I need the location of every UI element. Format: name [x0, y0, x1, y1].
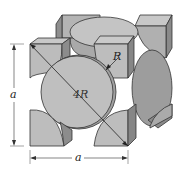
vertical-dimension-label: a: [10, 88, 17, 101]
radius-label: R: [112, 50, 121, 63]
face-diagonal-label: 4R: [72, 88, 88, 101]
fcc-unit-cell-diagram: 4R R a a: [0, 0, 184, 177]
horizontal-dimension-label: a: [75, 151, 82, 164]
